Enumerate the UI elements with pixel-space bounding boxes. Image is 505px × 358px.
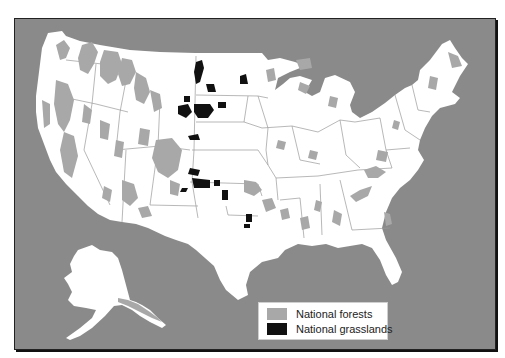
legend-label: National forests — [296, 308, 372, 320]
alaska-land — [64, 245, 166, 340]
legend-label: National grasslands — [296, 323, 393, 335]
grassland-swatch-icon — [267, 323, 287, 335]
forest-swatch-icon — [267, 308, 287, 320]
map-legend: National forests National grasslands — [258, 302, 388, 340]
us-map — [0, 0, 505, 358]
alaska-forest — [118, 298, 162, 322]
legend-item-national-forests: National forests — [267, 307, 372, 321]
legend-item-national-grasslands: National grasslands — [267, 322, 393, 336]
